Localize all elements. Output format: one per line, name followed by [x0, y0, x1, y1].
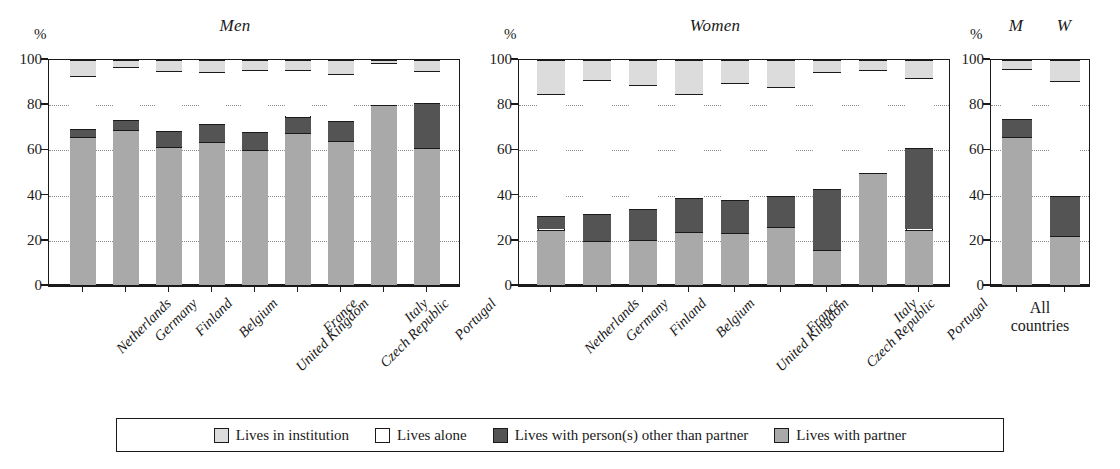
legend: Lives in institutionLives aloneLives wit…: [116, 418, 1004, 452]
segment-lives-in-institution: [1050, 60, 1081, 81]
segment-lives-with-other: [1050, 196, 1081, 237]
x-label-belgium: Belgium: [712, 295, 758, 341]
x-label-finland: Finland: [665, 295, 709, 339]
segment-lives-with-partner: [414, 148, 441, 286]
segment-lives-with-partner: [1002, 137, 1033, 286]
segment-lives-with-partner: [905, 230, 933, 287]
segment-lives-alone: [721, 83, 749, 201]
y-tick-mark-60: [511, 149, 518, 151]
group-label-line1: All: [990, 299, 1090, 317]
y-tick-mark-60: [41, 149, 48, 151]
panel-all-title-women: W: [1042, 16, 1086, 36]
segment-lives-in-institution: [583, 60, 611, 80]
bar-finland: [630, 60, 657, 284]
segment-lives-alone: [113, 67, 140, 120]
bar-m: [1002, 60, 1032, 284]
segment-lives-in-institution: [1002, 60, 1033, 69]
segment-lives-in-institution: [328, 60, 355, 74]
y-tick-label-60: 60: [27, 141, 42, 158]
y-tick-mark-20: [983, 239, 990, 241]
y-tick-label-20: 20: [27, 231, 42, 248]
y-tick-label-40: 40: [497, 186, 512, 203]
segment-lives-with-partner: [156, 147, 183, 286]
segment-lives-alone: [156, 71, 183, 131]
segment-lives-in-institution: [199, 60, 226, 72]
segment-lives-with-other: [328, 121, 355, 141]
y-tick-mark-60: [983, 149, 990, 151]
legend-item-3[interactable]: Lives with partner: [774, 427, 906, 444]
x-axis-line: [48, 285, 460, 287]
y-tick-label-80: 80: [969, 96, 984, 113]
segment-lives-with-other: [905, 148, 933, 229]
legend-swatch-inst-icon: [214, 428, 229, 443]
segment-lives-with-partner: [199, 142, 226, 286]
segment-lives-with-partner: [113, 130, 140, 286]
bar-france: [768, 60, 795, 284]
segment-lives-in-institution: [905, 60, 933, 78]
segment-lives-with-partner: [675, 232, 703, 286]
segment-lives-in-institution: [70, 60, 97, 76]
y-tick-mark-20: [511, 239, 518, 241]
x-axis-line: [990, 285, 1090, 287]
segment-lives-with-other: [675, 198, 703, 232]
segment-lives-with-partner: [285, 133, 312, 286]
y-tick-mark-40: [983, 194, 990, 196]
segment-lives-with-partner: [813, 250, 841, 286]
segment-lives-with-other: [113, 120, 140, 130]
y-tick-label-20: 20: [497, 231, 512, 248]
y-tick-mark-80: [41, 103, 48, 105]
y-tick-label-20: 20: [969, 231, 984, 248]
legend-item-2[interactable]: Lives with person(s) other than partner: [493, 427, 749, 444]
legend-swatch-partner-icon: [774, 428, 789, 443]
y-tick-mark-100: [511, 58, 518, 60]
y-axis-men: 020406080100: [4, 0, 48, 469]
segment-lives-in-institution: [675, 60, 703, 94]
legend-swatch-other-icon: [493, 428, 508, 443]
segment-lives-with-other: [414, 103, 441, 148]
segment-lives-alone: [199, 72, 226, 124]
segment-lives-with-partner: [767, 227, 795, 286]
segment-lives-alone: [813, 72, 841, 188]
segment-lives-with-other: [721, 200, 749, 233]
y-tick-label-40: 40: [969, 186, 984, 203]
bar-portugal: [414, 60, 440, 284]
legend-label: Lives alone: [397, 427, 467, 444]
legend-item-0[interactable]: Lives in institution: [214, 427, 349, 444]
y-tick-mark-100: [983, 58, 990, 60]
y-tick-label-60: 60: [497, 141, 512, 158]
segment-lives-with-other: [583, 214, 611, 241]
bar-germany: [113, 60, 139, 284]
segment-lives-in-institution: [629, 60, 657, 85]
bar-netherlands: [538, 60, 565, 284]
bar-portugal: [906, 60, 933, 284]
segment-lives-in-institution: [414, 60, 441, 71]
segment-lives-with-partner: [537, 230, 565, 287]
legend-label: Lives with person(s) other than partner: [515, 427, 749, 444]
segment-lives-alone: [70, 76, 97, 129]
segment-lives-alone: [1002, 69, 1033, 119]
figure-root: Men % 020406080100 NetherlandsGermanyFin…: [0, 0, 1120, 469]
plot-area-men: [48, 59, 460, 285]
segment-lives-alone: [583, 80, 611, 213]
legend-swatch-alone-icon: [375, 428, 390, 443]
segment-lives-alone: [328, 74, 355, 121]
panel-women-title: Women: [470, 16, 960, 36]
y-tick-mark-20: [41, 239, 48, 241]
y-tick-mark-0: [41, 284, 48, 286]
bar-italy: [371, 60, 397, 284]
bar-belgium: [676, 60, 703, 284]
segment-lives-alone: [905, 78, 933, 148]
y-tick-mark-40: [41, 194, 48, 196]
bar-finland: [156, 60, 182, 284]
segment-lives-in-institution: [813, 60, 841, 72]
segment-lives-with-other: [767, 196, 795, 228]
y-tick-label-80: 80: [27, 96, 42, 113]
segment-lives-alone: [1050, 81, 1081, 195]
legend-item-1[interactable]: Lives alone: [375, 427, 467, 444]
y-tick-label-40: 40: [27, 186, 42, 203]
segment-lives-with-partner: [721, 233, 749, 286]
segment-lives-alone: [371, 63, 398, 105]
segment-lives-with-partner: [371, 105, 398, 286]
plot-area-women: [518, 59, 950, 285]
segment-lives-in-institution: [721, 60, 749, 83]
